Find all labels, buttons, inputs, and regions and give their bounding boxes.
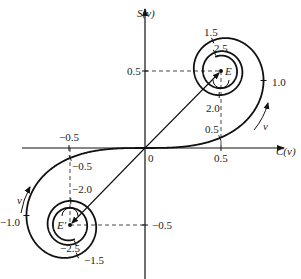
origin-label: 0 — [148, 152, 154, 164]
v-label-neg-2.0: −2.0 — [72, 183, 92, 195]
cornu-spiral-diagram: S(v) C(v) 0 −0.5 0.5 0.5 −0.5 E E′ 0.5 1… — [0, 0, 301, 279]
x-tick-label-pos: 0.5 — [214, 152, 228, 164]
v-label-2.0: 2.0 — [206, 102, 220, 114]
v-label-neg-1.5: −1.5 — [84, 254, 104, 266]
v-label-1.5: 1.5 — [204, 26, 218, 38]
v-label-neg-0.5: −0.5 — [72, 160, 92, 172]
point-e-label: E — [224, 65, 232, 77]
direction-label-negative: v — [17, 194, 22, 206]
x-axis-label: C(v) — [276, 145, 296, 158]
v-label-2.5: 2.5 — [214, 42, 228, 54]
y-axis-label: S(v) — [137, 7, 155, 20]
point-e-prime — [68, 223, 72, 227]
direction-label-positive: v — [263, 120, 268, 132]
v-label-neg-2.5: −2.5 — [60, 242, 80, 254]
x-tick-label-neg: −0.5 — [59, 131, 79, 143]
point-e-prime-label: E′ — [56, 219, 67, 231]
point-e — [219, 69, 223, 73]
v-label-neg-1.0: −1.0 — [0, 216, 20, 228]
v-label-0.5: 0.5 — [205, 123, 219, 135]
y-tick-label-pos: 0.5 — [127, 65, 141, 77]
y-tick-label-neg: −0.5 — [152, 219, 172, 231]
v-label-1.0: 1.0 — [272, 76, 286, 88]
